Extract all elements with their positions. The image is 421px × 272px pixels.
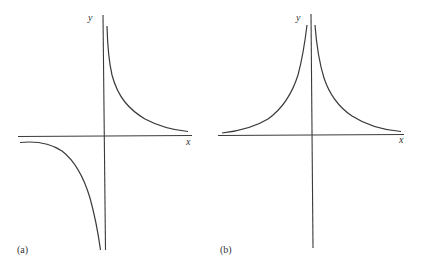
panel-a-y-axis-label: y [88,13,92,23]
plots-canvas [0,0,421,272]
panel-a-label: (a) [17,245,28,255]
panel-b-branch-right [315,25,401,132]
figure: y x (a) y x (b) [0,0,421,272]
panel-a-branch-quadrant-I [107,26,188,132]
panel-a-x-axis-label: x [186,137,190,147]
panel-a [18,15,192,250]
panel-a-y-axis [103,15,106,250]
panel-b-label: (b) [220,245,232,255]
panel-b-y-axis-label: y [296,13,300,23]
panel-b-y-axis [311,14,313,248]
panel-b-x-axis-label: x [399,135,403,145]
panel-a-x-axis [18,136,192,137]
panel-a-branch-quadrant-III [20,142,101,250]
panel-b-x-axis [218,135,404,136]
panel-b [218,14,404,248]
panel-b-branch-left [222,25,307,133]
